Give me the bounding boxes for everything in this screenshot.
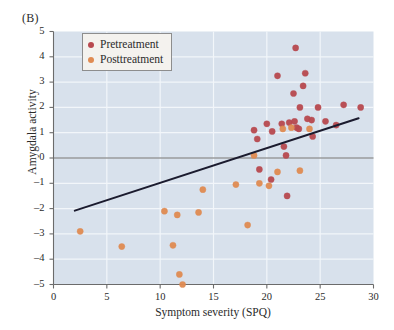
data-point — [309, 117, 315, 123]
data-point — [268, 176, 274, 182]
x-tick-label: 0 — [43, 291, 65, 302]
data-point — [280, 126, 286, 132]
data-point — [119, 243, 125, 249]
figure-panel-b: (B) Amygdala activity Symptom severity (… — [0, 0, 394, 330]
data-point — [251, 127, 257, 133]
legend: PretreatmentPosttreatment — [82, 33, 172, 71]
data-point — [296, 126, 302, 132]
y-tick-label: 3 — [23, 75, 45, 86]
y-tick-label: 2 — [23, 100, 45, 111]
data-point — [179, 281, 185, 287]
y-tick-label: –3 — [23, 227, 45, 238]
x-tick-label: 5 — [96, 291, 118, 302]
data-point — [281, 144, 287, 150]
data-point — [283, 152, 289, 158]
data-point — [300, 83, 306, 89]
data-point — [200, 187, 206, 193]
legend-label: Pretreatment — [100, 37, 159, 52]
y-tick-label: 1 — [23, 126, 45, 137]
data-point — [77, 228, 83, 234]
data-point — [264, 121, 270, 127]
x-tick-label: 20 — [256, 291, 278, 302]
y-tick-label: 4 — [23, 50, 45, 61]
data-point — [291, 118, 297, 124]
data-point — [269, 128, 275, 134]
y-tick-label: –4 — [23, 252, 45, 263]
legend-marker-icon — [88, 57, 94, 63]
data-point — [233, 181, 239, 187]
data-point — [195, 209, 201, 215]
x-tick-label: 10 — [149, 291, 171, 302]
data-point — [322, 118, 328, 124]
data-point — [266, 183, 272, 189]
data-point — [288, 125, 294, 131]
data-point — [245, 222, 251, 228]
data-point — [256, 166, 262, 172]
legend-label: Posttreatment — [100, 52, 163, 67]
y-tick-label: 5 — [23, 25, 45, 36]
data-point — [293, 45, 299, 51]
data-point — [284, 193, 290, 199]
x-tick-label: 15 — [203, 291, 225, 302]
legend-item: Posttreatment — [88, 52, 163, 67]
y-tick-label: 0 — [23, 151, 45, 162]
scatter-plot — [0, 0, 394, 330]
legend-marker-icon — [88, 42, 94, 48]
y-tick-label: –5 — [23, 278, 45, 289]
data-point — [256, 180, 262, 186]
data-point — [315, 104, 321, 110]
y-tick-label: –2 — [23, 202, 45, 213]
data-point — [302, 70, 308, 76]
data-point — [297, 168, 303, 174]
data-point — [174, 212, 180, 218]
data-point — [341, 102, 347, 108]
data-point — [176, 271, 182, 277]
data-point — [358, 104, 364, 110]
data-point — [170, 242, 176, 248]
data-point — [274, 73, 280, 79]
data-point — [306, 126, 312, 132]
data-point — [254, 136, 260, 142]
y-tick-label: –1 — [23, 176, 45, 187]
x-tick-label: 25 — [309, 291, 331, 302]
data-point — [274, 169, 280, 175]
data-point — [297, 104, 303, 110]
legend-item: Pretreatment — [88, 37, 163, 52]
x-tick-label: 30 — [363, 291, 385, 302]
data-point — [290, 90, 296, 96]
data-point — [161, 208, 167, 214]
